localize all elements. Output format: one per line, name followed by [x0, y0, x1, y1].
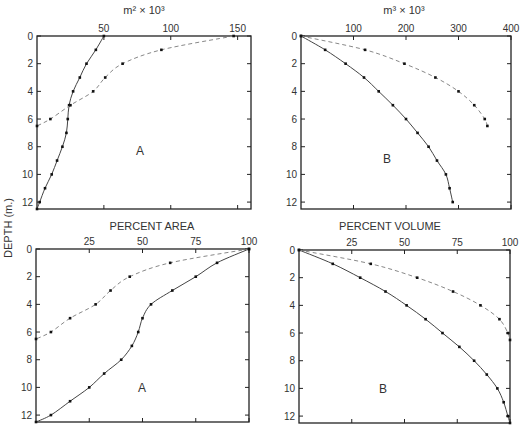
data-point-solid — [405, 304, 408, 307]
panel-bottom-right: PERCENT VOLUME255075100024681012B — [284, 220, 519, 424]
data-point-solid — [103, 372, 106, 375]
data-point-solid — [216, 262, 219, 265]
data-point-dashed — [35, 338, 38, 341]
data-point-solid — [416, 132, 419, 135]
x-tick-label: 25 — [84, 236, 96, 247]
data-point-dashed — [403, 62, 406, 65]
data-point-dashed — [50, 331, 53, 334]
y-tick-label: 12 — [22, 197, 34, 208]
panel-top-right: m³ × 10³100200300400024681012B — [286, 4, 520, 209]
data-point-dashed — [507, 332, 510, 335]
data-point-dashed — [121, 62, 124, 65]
y-tick-label: 4 — [26, 299, 32, 310]
data-point-solid — [79, 76, 82, 79]
data-point-dashed — [509, 339, 512, 342]
y-tick-label: 10 — [284, 383, 296, 394]
y-tick-label: 4 — [289, 300, 295, 311]
data-point-dashed — [369, 263, 372, 266]
y-tick-label: 0 — [291, 31, 297, 42]
data-point-solid — [331, 263, 334, 266]
data-point-dashed — [248, 248, 251, 251]
data-point-solid — [95, 49, 98, 52]
data-point-solid — [103, 35, 106, 38]
data-point-dashed — [298, 249, 301, 252]
y-tick-label: 6 — [27, 114, 33, 125]
y-tick-label: 0 — [27, 31, 33, 42]
data-point-solid — [363, 76, 366, 79]
data-point-dashed — [416, 276, 419, 279]
data-point-solid — [344, 62, 347, 65]
data-point-dashed — [300, 35, 303, 38]
data-point-dashed — [69, 104, 72, 107]
data-point-dashed — [128, 275, 131, 278]
data-point-dashed — [69, 317, 72, 320]
data-point-solid — [141, 317, 144, 320]
data-point-dashed — [486, 125, 489, 128]
x-tick-label: 50 — [399, 237, 411, 248]
data-point-solid — [36, 208, 39, 211]
data-point-solid — [441, 332, 444, 335]
series-line-solid — [37, 36, 104, 209]
data-point-dashed — [49, 118, 52, 121]
data-point-solid — [324, 49, 327, 52]
data-point-solid — [150, 303, 153, 306]
data-point-dashed — [452, 290, 455, 293]
y-tick-label: 4 — [27, 86, 33, 97]
data-point-dashed — [473, 104, 476, 107]
data-point-solid — [72, 90, 75, 93]
y-tick-label: 0 — [26, 244, 32, 255]
data-point-solid — [485, 373, 488, 376]
y-tick-label: 6 — [289, 328, 295, 339]
y-tick-label: 0 — [289, 245, 295, 256]
y-tick-label: 12 — [21, 410, 33, 421]
data-point-solid — [377, 90, 380, 93]
x-tick-label: 50 — [137, 236, 149, 247]
data-point-solid — [451, 201, 454, 204]
data-point-dashed — [434, 76, 437, 79]
panel-letter: B — [383, 152, 391, 166]
y-tick-label: 2 — [26, 271, 32, 282]
panel-letter: A — [138, 381, 146, 395]
data-point-solid — [384, 290, 387, 293]
y-tick-label: 10 — [22, 169, 34, 180]
data-point-solid — [509, 422, 512, 425]
y-tick-label: 2 — [27, 58, 33, 69]
plot-frame — [36, 249, 249, 422]
panel-letter: A — [136, 144, 144, 158]
data-point-dashed — [483, 118, 486, 121]
data-point-dashed — [94, 303, 97, 306]
y-tick-label: 8 — [291, 141, 297, 152]
y-tick-label: 10 — [21, 382, 33, 393]
series-line-solid — [36, 249, 249, 422]
data-point-solid — [120, 358, 123, 361]
data-point-solid — [69, 400, 72, 403]
data-point-solid — [171, 289, 174, 292]
series-line-dashed — [37, 36, 234, 126]
data-point-dashed — [457, 90, 460, 93]
x-tick-label: 75 — [190, 236, 202, 247]
plot-frame — [299, 250, 510, 423]
data-point-solid — [35, 421, 38, 424]
y-tick-label: 12 — [286, 197, 298, 208]
x-tick-label: 200 — [398, 23, 415, 34]
x-tick-label: 100 — [502, 237, 519, 248]
series-line-dashed — [301, 36, 487, 126]
data-point-solid — [392, 104, 395, 107]
data-point-solid — [436, 159, 439, 162]
x-tick-label: 50 — [98, 23, 110, 34]
data-point-dashed — [232, 35, 235, 38]
data-point-solid — [427, 145, 430, 148]
x-axis-title: PERCENT AREA — [110, 220, 195, 232]
data-point-dashed — [479, 304, 482, 307]
data-point-solid — [50, 414, 53, 417]
y-tick-label: 6 — [26, 327, 32, 338]
data-point-solid — [65, 132, 68, 135]
data-point-solid — [131, 345, 134, 348]
depth-profile-figure: DEPTH (m.) m² × 10³50100150024681012Am³ … — [0, 0, 527, 435]
data-point-dashed — [160, 49, 163, 52]
data-point-solid — [359, 276, 362, 279]
data-point-solid — [88, 386, 91, 389]
y-axis-label: DEPTH (m.) — [2, 198, 14, 258]
data-point-dashed — [92, 90, 95, 93]
panel-top-left: m² × 10³50100150024681012A — [22, 4, 251, 210]
